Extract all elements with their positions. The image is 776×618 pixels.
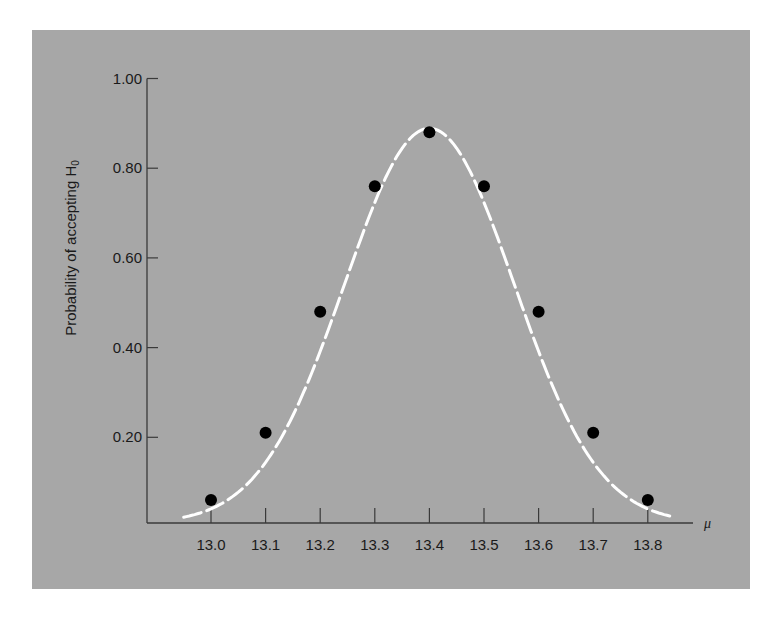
y-tick-label: 1.00 xyxy=(113,70,142,87)
data-point xyxy=(642,494,654,506)
oc-curve-chart: 0.200.400.600.801.0013.013.113.213.313.4… xyxy=(0,0,776,618)
data-point xyxy=(205,494,217,506)
x-axis-label: μ xyxy=(703,516,711,531)
x-tick-label: 13.3 xyxy=(360,536,389,553)
y-axis-label: Probability of accepting H0 xyxy=(62,160,81,336)
data-point xyxy=(478,180,490,192)
y-axis-label-subscript: 0 xyxy=(70,160,81,166)
x-tick-label: 13.6 xyxy=(524,536,553,553)
data-point xyxy=(369,180,381,192)
data-point xyxy=(314,306,326,318)
oc-curve xyxy=(184,128,675,517)
data-point xyxy=(587,427,599,439)
x-tick-label: 13.2 xyxy=(306,536,335,553)
x-tick-label: 13.5 xyxy=(469,536,498,553)
x-tick-label: 13.1 xyxy=(251,536,280,553)
data-point xyxy=(260,427,272,439)
x-tick-label: 13.7 xyxy=(579,536,608,553)
y-tick-label: 0.60 xyxy=(113,249,142,266)
y-axis-label-text: Probability of accepting H xyxy=(62,166,79,336)
y-tick-label: 0.80 xyxy=(113,159,142,176)
x-tick-label: 13.0 xyxy=(196,536,225,553)
data-point xyxy=(533,306,545,318)
y-tick-label: 0.20 xyxy=(113,428,142,445)
x-tick-label: 13.4 xyxy=(415,536,444,553)
data-point xyxy=(423,126,435,138)
x-tick-label: 13.8 xyxy=(633,536,662,553)
y-tick-label: 0.40 xyxy=(113,339,142,356)
